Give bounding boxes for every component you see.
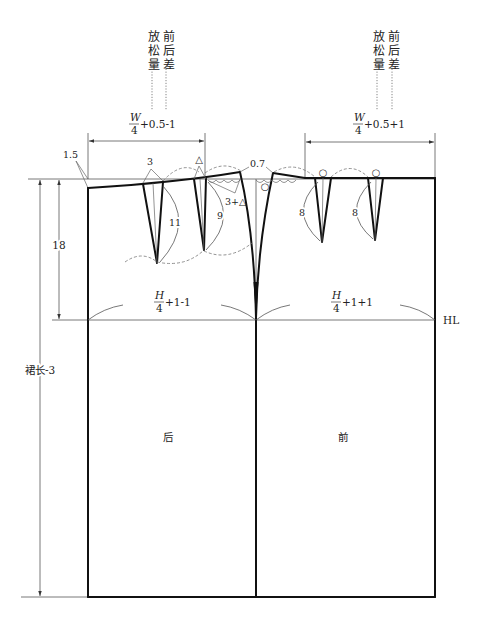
front-dart-2-length-label: 8: [352, 207, 358, 218]
hip-arcs: [88, 305, 435, 320]
hip-depth-dimension: 18: [52, 180, 65, 319]
front-hip-formula: H 4 +1+1: [331, 289, 373, 314]
side-intake-label: 3+△: [225, 196, 247, 207]
side-annotations: 3+△ 0.7 ○: [208, 158, 296, 207]
triangle-icon: △: [195, 154, 203, 165]
back-front-back-diff-label: 前后差: [160, 29, 174, 72]
front-hip-suffix: +1+1: [342, 296, 373, 308]
front-panel-label: 前: [338, 431, 348, 443]
skirt-pattern-diagram: 放松量 前后差 放松量 前后差 W 4 +0.5-1 W 4 +0.5+1 HL: [0, 0, 477, 627]
hip-depth-label: 18: [52, 239, 65, 251]
pattern-canvas: 放松量 前后差 放松量 前后差 W 4 +0.5-1 W 4 +0.5+1 HL: [0, 0, 477, 627]
dashed-arc: [331, 169, 368, 178]
circle-marker-icon: ○: [261, 181, 270, 192]
hip-arc: [221, 305, 256, 320]
pattern-outline: [88, 172, 435, 597]
back-dart-1: 3 11: [143, 156, 181, 263]
back-dart-1-length-label: 11: [169, 217, 181, 228]
back-panel-label: 后: [163, 431, 173, 443]
front-top-annotations: 放松量 前后差: [370, 29, 399, 110]
front-waist-suffix: +0.5+1: [364, 118, 405, 130]
front-dart-1-length-label: 8: [299, 207, 305, 218]
back-ease-label: 放松量: [145, 29, 159, 72]
back-hip-numerator: H: [154, 289, 165, 301]
back-side-scallop: [208, 180, 240, 183]
side-intake-pointer: [209, 179, 240, 193]
back-dart-1-legs: [143, 182, 163, 263]
hip-line-label: HL: [443, 314, 459, 326]
back-waist-suffix: +0.5-1: [140, 118, 176, 130]
circle-marker-icon: ○: [372, 167, 381, 178]
front-waistline: [273, 173, 435, 178]
front-dart-1-length-arc: [303, 182, 320, 241]
hip-arc: [400, 305, 435, 320]
front-dart-2-length-arc: [356, 182, 373, 239]
back-dart-1-width-label: 3: [147, 156, 153, 167]
back-dart-2-legs: [194, 178, 206, 250]
back-hip-suffix: +1-1: [165, 296, 191, 308]
waist-drop-label: 1.5: [63, 149, 78, 160]
front-front-back-diff-label: 前后差: [385, 29, 399, 72]
hip-arc: [256, 305, 290, 320]
back-waist-denominator: 4: [131, 124, 138, 136]
front-waist-denominator: 4: [355, 124, 362, 136]
front-hip-numerator: H: [331, 289, 342, 301]
dashed-arc: [125, 256, 157, 262]
side-seam-convergence: [254, 282, 259, 318]
waist-drop-annotation: 1.5: [63, 149, 88, 188]
back-top-annotations: 放松量 前后差: [145, 29, 174, 110]
back-waist-formula: W 4 +0.5-1: [129, 111, 176, 136]
side-raise-label: 0.7: [250, 158, 265, 169]
back-dart-2: △ 9: [194, 154, 224, 250]
hip-arc: [88, 305, 123, 320]
back-dart-1-width-pointer: [143, 169, 163, 183]
front-ease-label: 放松量: [370, 29, 384, 72]
back-hip-formula: H 4 +1-1: [154, 289, 191, 314]
front-waist-formula: W 4 +0.5+1: [353, 111, 405, 136]
circle-marker-icon: ○: [319, 167, 328, 178]
skirt-length-dimension: 裙长-3: [25, 180, 55, 596]
waist-drop-pointer: [76, 161, 88, 188]
skirt-length-label: 裙长-3: [25, 364, 55, 376]
front-side-seam: [256, 173, 273, 318]
back-dart-2-length-label: 9: [217, 210, 223, 221]
back-hip-denominator: 4: [156, 302, 163, 314]
back-side-seam: [240, 172, 256, 318]
front-hip-denominator: 4: [333, 302, 340, 314]
